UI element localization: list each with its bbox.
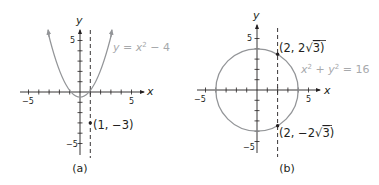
point-label-bottom: (2, −2√3) [279,126,334,140]
y-axis-a: 5 −5 y [66,14,83,155]
x-tick-neg5-a: −5 [22,97,34,106]
y-tick-neg5-a: −5 [66,140,78,149]
x-axis-b: −5 5 x [194,84,331,104]
y-axis-label-b: y [252,9,260,22]
point-label-1-neg3: (1, −3) [93,118,134,132]
caption-a: (a) [72,162,87,175]
point-1-neg3 [89,121,92,124]
x-axis-label-b: x [323,84,331,97]
y-tick-5-a: 5 [70,36,75,45]
equation-a: y = x2 − 4 [112,41,170,54]
x-tick-5-a: 5 [129,97,134,106]
x-tick-5-b: 5 [306,95,311,104]
caption-b: (b) [279,162,295,175]
panel-b: −5 5 x 5 −5 y [194,9,369,175]
y-tick-neg5-b: −5 [243,143,255,152]
y-tick-5-b: 5 [247,34,252,43]
panel-a: −5 5 x 5 −5 y [20,14,170,175]
y-axis-label-a: y [75,14,83,27]
x-axis-label-a: x [146,85,154,98]
equation-b: x2 + y2 = 16 [300,63,369,76]
x-tick-neg5-b: −5 [194,95,206,104]
figure-canvas: −5 5 x 5 −5 y [0,0,379,185]
point-label-top: (2, 2√3) [279,41,325,55]
x-axis-a: −5 5 x [20,85,154,106]
